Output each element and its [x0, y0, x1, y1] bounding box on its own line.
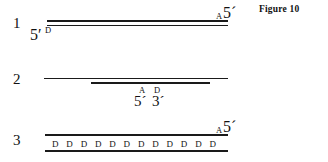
row-number-3: 3 [13, 133, 21, 148]
row-3-d-letter: D [81, 140, 88, 149]
row-3-d-letter: D [124, 140, 131, 149]
row-1-left-end-label: 5ʹ [30, 27, 42, 43]
row-3-d-letter: D [152, 140, 159, 149]
row-3-d-letter: D [138, 140, 145, 149]
row-1-upper-strand-line [47, 20, 228, 22]
row-number-1: 1 [13, 16, 21, 31]
row-3-right-letter-a: A [216, 126, 222, 135]
row-2-end-label-5-prime: 5´ [134, 94, 147, 109]
row-number-2: 2 [13, 72, 21, 87]
row-2-upper-strand-line [44, 78, 228, 79]
row-3-d-letter: D [181, 140, 188, 149]
row-3-d-letter: D [66, 140, 73, 149]
row-1-right-letter-a: A [216, 12, 222, 21]
row-3-right-end-label: 5´ [223, 119, 236, 135]
row-3-d-letter: D [95, 140, 102, 149]
figure-caption: Figure 10 [259, 5, 299, 15]
row-3-d-letter-strip: D D D D D D D D D D D D [52, 139, 216, 149]
figure-10-diagram: Figure 10 1 5ʹ D A 5´ 2 A D 5´ 3´ 3 D D … [0, 0, 328, 162]
row-3-upper-strand-line [45, 134, 228, 136]
row-2-lower-strand-line [91, 82, 210, 84]
row-1-lower-strand-line [47, 25, 228, 27]
row-1-left-letter-d: D [45, 26, 51, 35]
row-1-right-end-label: 5´ [223, 5, 236, 21]
row-3-lower-strand-line [45, 150, 228, 152]
row-3-d-letter: D [195, 140, 202, 149]
row-3-d-letter: D [209, 140, 216, 149]
row-3-d-letter: D [109, 140, 116, 149]
row-3-d-letter: D [52, 140, 59, 149]
row-3-d-letter: D [167, 140, 174, 149]
row-2-end-label-3-prime: 3´ [152, 94, 165, 109]
